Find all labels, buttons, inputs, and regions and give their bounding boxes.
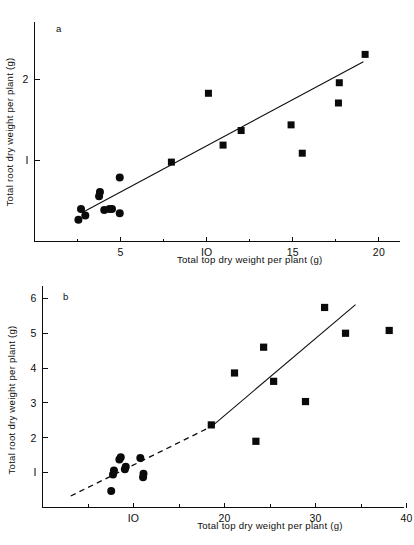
x-tick-label-10: IO — [128, 512, 140, 524]
data-point-circle — [107, 487, 115, 495]
panel-a-plot: 5IO1520I2Total top dry weight per plant … — [0, 0, 414, 272]
regression-line-a — [82, 62, 364, 213]
y-tick-label-4: 4 — [30, 362, 36, 374]
x-tick-label-20: 20 — [373, 246, 385, 258]
series-circles-b — [107, 453, 147, 495]
data-point-square — [260, 344, 267, 351]
panel-letter-a: a — [56, 23, 62, 34]
data-point-square — [336, 79, 343, 86]
data-point-square — [288, 121, 295, 128]
data-point-square — [362, 51, 369, 58]
series-squares-a — [168, 51, 369, 166]
data-point-square — [335, 99, 342, 106]
x-tick-label-40: 40 — [400, 512, 412, 524]
y-tick-label-2: 2 — [22, 73, 28, 85]
data-point-square — [342, 330, 349, 337]
y-tick-label-2: 2 — [30, 432, 36, 444]
figure-container: 5IO1520I2Total top dry weight per plant … — [0, 0, 414, 545]
y-axis-title: Total root dry weight per plant (g) — [4, 58, 15, 207]
data-point-circle — [136, 454, 144, 462]
y-tick-label-5: 5 — [30, 327, 36, 339]
data-point-square — [252, 438, 259, 445]
data-point-circle — [108, 205, 116, 213]
data-point-circle — [74, 216, 82, 224]
series-squares-b — [208, 304, 393, 445]
data-point-circle — [116, 174, 124, 182]
data-point-circle — [140, 470, 148, 478]
series-circles-a — [74, 174, 123, 224]
regression-line-b — [212, 305, 356, 427]
data-point-circle — [122, 463, 130, 471]
x-axis-title: Total top dry weight per plant (g) — [197, 520, 343, 531]
y-tick-label-3: 3 — [30, 397, 36, 409]
data-point-square — [321, 304, 328, 311]
data-point-square — [270, 378, 277, 385]
data-point-square — [205, 90, 212, 97]
data-point-square — [168, 159, 175, 166]
panel-b-plot: IO203040I23456Total top dry weight per p… — [0, 272, 414, 545]
x-tick-label-5: 5 — [118, 246, 124, 258]
data-point-circle — [117, 453, 125, 461]
y-tick-label-1: I — [25, 154, 28, 166]
data-point-square — [231, 369, 238, 376]
panel-b: IO203040I23456Total top dry weight per p… — [0, 272, 414, 545]
data-point-square — [208, 421, 215, 428]
data-point-square — [220, 142, 227, 149]
data-point-square — [302, 398, 309, 405]
y-tick-label-1: I — [33, 466, 36, 478]
data-point-circle — [110, 467, 118, 475]
data-point-square — [386, 327, 393, 334]
data-point-square — [299, 150, 306, 157]
y-axis-title: Total root dry weight per plant (g) — [6, 326, 17, 475]
data-point-circle — [116, 209, 124, 217]
data-point-circle — [96, 188, 104, 196]
x-axis-title: Total top dry weight per plant (g) — [177, 254, 323, 265]
y-tick-label-6: 6 — [30, 292, 36, 304]
data-point-circle — [81, 212, 89, 220]
panel-letter-b: b — [63, 291, 68, 302]
panel-a: 5IO1520I2Total top dry weight per plant … — [0, 0, 414, 272]
data-point-square — [238, 127, 245, 134]
